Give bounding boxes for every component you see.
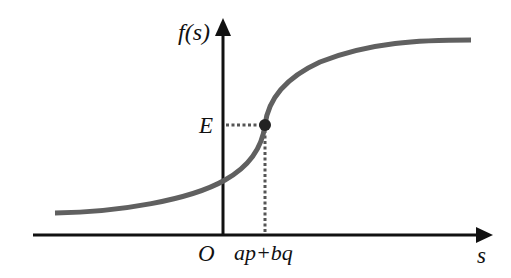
- ap-bq-label: ap+bq: [234, 242, 293, 264]
- y-axis-arrow-icon: [215, 18, 231, 36]
- diagram-canvas: [0, 0, 511, 278]
- x-axis-label: s: [477, 244, 486, 267]
- e-label: E: [199, 114, 213, 137]
- y-axis-label: f(s): [178, 20, 210, 44]
- origin-label: O: [198, 242, 215, 265]
- x-axis-arrow-icon: [476, 227, 493, 243]
- equilibrium-point: [259, 119, 271, 131]
